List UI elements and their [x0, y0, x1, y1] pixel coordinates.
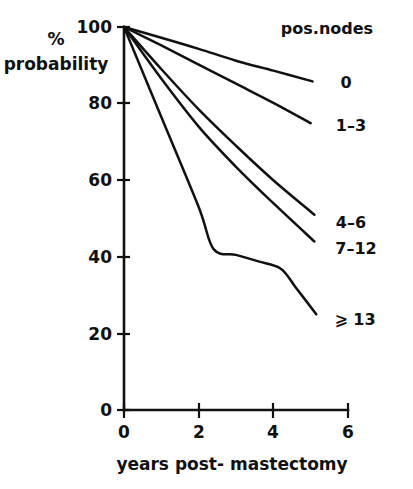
legend-title: pos.nodes — [281, 19, 373, 38]
x-tick-label-2: 2 — [193, 422, 205, 442]
legend-label-ge-13: ⩾ 13 — [334, 310, 375, 329]
legend-label-1-3: 1–3 — [336, 116, 366, 135]
y-tick-label-100: 100 — [77, 17, 113, 37]
x-axis-label: years post- mastectomy — [116, 454, 347, 474]
legend-label-0: 0 — [340, 73, 351, 92]
x-tick-label-6: 6 — [342, 422, 354, 442]
y-tick-label-80: 80 — [88, 93, 112, 113]
y-tick-label-0: 0 — [100, 400, 112, 420]
y-axis-label-percent: % — [47, 29, 64, 49]
survival-curve-chart: % probability 100 80 60 40 20 0 0 2 4 6 … — [0, 0, 413, 489]
legend-label-4-6: 4–6 — [336, 213, 366, 232]
x-tick-label-4: 4 — [267, 422, 279, 442]
y-tick-label-60: 60 — [88, 170, 112, 190]
legend-label-7-12: 7–12 — [335, 239, 376, 258]
y-tick-label-20: 20 — [88, 324, 112, 344]
y-axis-label-probability: probability — [4, 54, 109, 74]
x-tick-label-0: 0 — [118, 422, 130, 442]
y-tick-label-40: 40 — [88, 247, 112, 267]
